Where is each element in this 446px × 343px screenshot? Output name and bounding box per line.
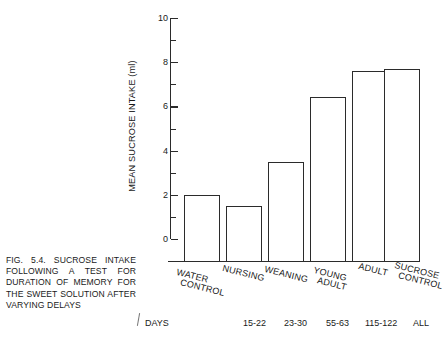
days-row: DAYS 15-22 23-30 55-63 115-122 ALL bbox=[145, 318, 435, 334]
bar-weaning bbox=[268, 162, 304, 261]
y-tick-label-8: 8 bbox=[148, 57, 168, 67]
y-axis-label: MEAN SUCROSE INTAKE (ml) bbox=[127, 60, 137, 192]
y-tick-label-0: 0 bbox=[148, 234, 168, 244]
category-label-weaning: WEANING bbox=[264, 264, 310, 284]
bar-adult bbox=[352, 71, 388, 261]
category-label-adult: ADULT bbox=[358, 261, 389, 278]
days-value-115-122: 115-122 bbox=[365, 318, 397, 328]
plot-area: 0 2 4 6 8 10 MEAN SUCROSE INTAKE (ml) bbox=[170, 18, 420, 262]
bar-young-adult bbox=[310, 97, 346, 261]
y-tick-label-6: 6 bbox=[148, 101, 168, 111]
category-labels-group: WATER CONTROL NURSING WEANING YOUNG ADUL… bbox=[170, 263, 425, 315]
y-tick-label-2: 2 bbox=[148, 190, 168, 200]
category-label-nursing: NURSING bbox=[222, 263, 266, 283]
days-row-label: DAYS bbox=[145, 318, 169, 328]
bars-group bbox=[170, 18, 420, 261]
bar-nursing bbox=[226, 206, 262, 261]
days-value-55-63: 55-63 bbox=[326, 318, 349, 328]
y-tick-label-4: 4 bbox=[148, 146, 168, 156]
figure-caption-text: FIG. 5.4. SUCROSE INTAKE FOLLOWING A TES… bbox=[6, 255, 136, 310]
category-label-sucrose-control: SUCROSE CONTROL bbox=[391, 260, 445, 291]
category-label-water-control: WATER CONTROL bbox=[173, 267, 227, 298]
figure-caption: FIG. 5.4. SUCROSE INTAKE FOLLOWING A TES… bbox=[6, 255, 136, 311]
bar-sucrose-control bbox=[384, 69, 420, 261]
y-tick-label-10: 10 bbox=[148, 13, 168, 23]
days-tick-mark bbox=[137, 313, 140, 326]
days-value-23-30: 23-30 bbox=[284, 318, 307, 328]
days-value-15-22: 15-22 bbox=[243, 318, 266, 328]
bar-water-control bbox=[184, 195, 220, 261]
category-label-young-adult: YOUNG ADULT bbox=[310, 265, 349, 292]
days-value-all: ALL bbox=[413, 318, 429, 328]
